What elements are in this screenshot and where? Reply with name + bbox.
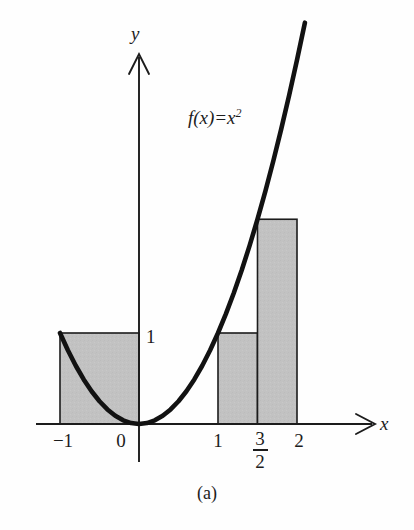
equation-base: x <box>227 107 235 128</box>
parabola-upper-branch <box>299 98 307 211</box>
x-tick-label-zero: 0 <box>110 431 132 450</box>
x-tick-label-negative-one: −1 <box>46 431 80 450</box>
rectangle-neg1-to-0 <box>60 333 139 424</box>
function-equation-label: f(x)=x2 <box>188 107 242 127</box>
fraction-numerator: 3 <box>255 429 265 448</box>
fraction-denominator: 2 <box>255 452 265 471</box>
function-name: f(x) <box>188 107 214 128</box>
equals-sign: = <box>214 107 227 128</box>
rectangle-1-to-3over2 <box>218 333 258 424</box>
x-tick-label-two: 2 <box>288 431 310 450</box>
figure-container: y x −1 0 1 2 3 2 1 f(x)=x2 (a) <box>0 0 414 530</box>
y-axis-label: y <box>131 24 139 43</box>
x-tick-label-three-halves: 3 2 <box>247 429 273 471</box>
equation-exponent: 2 <box>236 106 242 120</box>
figure-caption: (a) <box>180 484 234 502</box>
rectangle-3over2-to-2 <box>258 219 298 424</box>
x-tick-label-one: 1 <box>207 431 229 450</box>
x-axis-label: x <box>380 414 388 433</box>
y-tick-label-one: 1 <box>146 327 162 346</box>
